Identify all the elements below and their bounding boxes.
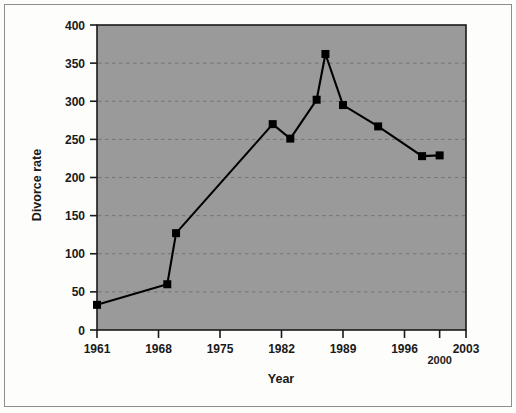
x-tick-label: 1961: [84, 342, 111, 356]
x-axis: 19611968197519821989199620002003: [84, 330, 480, 366]
x-tick-label: 1982: [268, 342, 295, 356]
data-point-marker: [436, 151, 444, 159]
x-tick-label: 1989: [330, 342, 357, 356]
data-point-marker: [418, 152, 426, 160]
x-tick-label: 1968: [145, 342, 172, 356]
y-tick-label: 200: [65, 171, 85, 185]
x-tick-label: 2003: [453, 342, 480, 356]
y-tick-label: 300: [65, 95, 85, 109]
data-point-marker: [163, 280, 171, 288]
y-tick-label: 0: [78, 324, 85, 338]
data-point-marker: [374, 122, 382, 130]
data-point-marker: [269, 120, 277, 128]
data-point-marker: [286, 135, 294, 143]
x-axis-title: Year: [268, 372, 295, 386]
y-axis: 050100150200250300350400: [65, 19, 97, 338]
data-point-marker: [313, 96, 321, 104]
chart-figure: 050100150200250300350400 196119681975198…: [0, 0, 516, 413]
data-point-marker: [93, 301, 101, 309]
x-tick-label: 1975: [207, 342, 234, 356]
x-tick-label: 2000: [427, 354, 451, 366]
y-tick-label: 100: [65, 247, 85, 261]
data-point-marker: [172, 229, 180, 237]
data-point-marker: [339, 101, 347, 109]
line-chart: 050100150200250300350400 196119681975198…: [0, 0, 516, 413]
y-tick-label: 350: [65, 57, 85, 71]
data-point-marker: [321, 50, 329, 58]
x-tick-label: 1996: [391, 342, 418, 356]
y-axis-title: Divorce rate: [30, 149, 44, 221]
y-tick-label: 150: [65, 209, 85, 223]
y-tick-label: 50: [72, 285, 86, 299]
y-tick-label: 250: [65, 133, 85, 147]
y-tick-label: 400: [65, 19, 85, 33]
